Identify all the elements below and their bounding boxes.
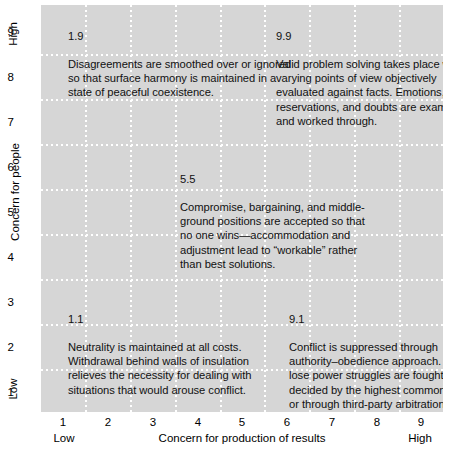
annotation-text: Conflict is suppressed through authority…	[289, 340, 443, 410]
annotation-text: Valid problem solving takes place with v…	[276, 57, 443, 127]
annotation-cell-9-9: 9.9 Valid problem solving takes place wi…	[276, 15, 443, 142]
y-tick-label: 2	[0, 341, 14, 353]
annotation-code: 9.1	[289, 312, 443, 326]
y-axis-title: Concern for people	[9, 122, 21, 262]
y-tick-label: 3	[0, 296, 14, 308]
y-axis-low-label: Low	[7, 372, 19, 406]
x-tick-label: 3	[143, 416, 163, 429]
y-axis-high-label: High	[7, 17, 19, 51]
annotation-text: Disagreements are smoothed over or ignor…	[68, 57, 298, 99]
annotation-text: Neutrality is maintained at all costs. W…	[68, 340, 253, 396]
y-tick-label: 8	[0, 71, 14, 83]
plot-area: 1.9 Disagreements are smoothed over or i…	[41, 5, 443, 412]
managerial-grid-figure: 1.9 Disagreements are smoothed over or i…	[0, 0, 471, 450]
x-tick-label: 4	[188, 416, 208, 429]
annotation-code: 1.1	[68, 312, 253, 326]
x-axis-low-label: Low	[44, 432, 84, 444]
annotation-cell-9-1: 9.1 Conflict is suppressed through autho…	[289, 298, 443, 412]
x-tick-label: 1	[53, 416, 73, 429]
annotation-cell-1-1: 1.1 Neutrality is maintained at all cost…	[68, 298, 253, 411]
gridline-horizontal	[41, 144, 443, 146]
x-tick-label: 6	[277, 416, 297, 429]
annotation-text: Compromise, bargaining, and middle-groun…	[180, 200, 380, 270]
x-axis-title: Concern for production of results	[141, 432, 343, 444]
x-axis-high-label: High	[400, 432, 440, 444]
x-tick-label: 2	[98, 416, 118, 429]
annotation-cell-5-5: 5.5 Compromise, bargaining, and middle-g…	[180, 158, 380, 285]
annotation-code: 1.9	[68, 29, 298, 43]
x-tick-label: 8	[367, 416, 387, 429]
x-tick-label: 5	[232, 416, 252, 429]
x-tick-label: 9	[411, 416, 431, 429]
x-tick-label: 7	[322, 416, 342, 429]
annotation-cell-1-9: 1.9 Disagreements are smoothed over or i…	[68, 15, 298, 114]
annotation-code: 5.5	[180, 172, 380, 186]
annotation-code: 9.9	[276, 29, 443, 43]
